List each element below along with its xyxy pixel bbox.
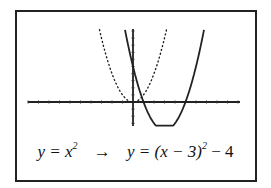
transformed-equation: y = (x − 3)2 − 4 (127, 142, 233, 161)
original-equation: y = x2 (37, 142, 77, 161)
axes (28, 29, 240, 126)
transformation-caption: y = x2 → y = (x − 3)2 − 4 (0, 140, 271, 162)
shifted-parabola-solid (125, 30, 204, 126)
curves (100, 30, 205, 126)
arrow-icon: → (94, 142, 111, 162)
